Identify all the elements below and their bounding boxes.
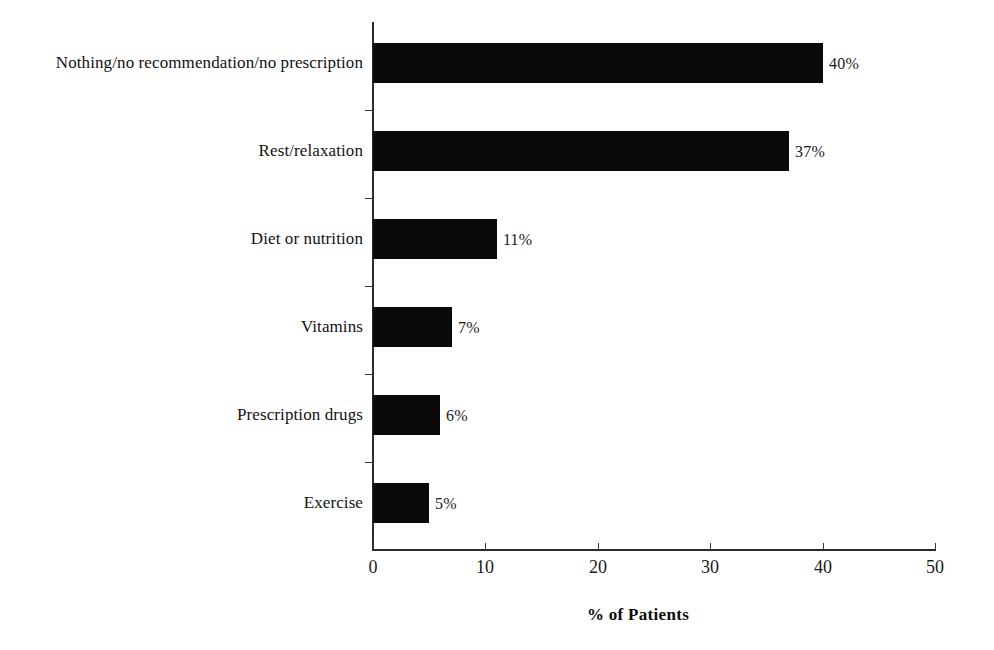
x-axis-tick-40 xyxy=(823,543,824,550)
bar-1 xyxy=(373,131,789,171)
bar-0 xyxy=(373,43,823,83)
x-tick-label-0: 0 xyxy=(343,556,403,578)
bar-value-4: 6% xyxy=(446,408,468,424)
x-axis-tick-30 xyxy=(710,543,711,550)
x-axis-title: % of Patients xyxy=(0,605,994,625)
x-axis-line xyxy=(373,549,936,551)
x-axis-tick-0 xyxy=(373,543,374,550)
category-label-5: Exercise xyxy=(33,493,363,513)
y-axis-tick-2 xyxy=(365,198,373,199)
x-tick-label-40: 40 xyxy=(793,556,853,578)
bar-value-3: 7% xyxy=(458,320,480,336)
y-axis-tick-3 xyxy=(365,286,373,287)
bar-value-1: 37% xyxy=(795,144,825,160)
x-axis-tick-10 xyxy=(485,543,486,550)
y-axis-tick-1 xyxy=(365,110,373,111)
category-label-2: Diet or nutrition xyxy=(33,229,363,249)
bar-4 xyxy=(373,395,440,435)
bar-3 xyxy=(373,307,452,347)
x-tick-label-10: 10 xyxy=(455,556,515,578)
x-axis-tick-20 xyxy=(598,543,599,550)
category-label-4: Prescription drugs xyxy=(33,405,363,425)
x-axis-tick-50 xyxy=(935,543,936,550)
bar-5 xyxy=(373,483,429,523)
x-axis-title-text: % of Patients xyxy=(305,605,689,624)
x-tick-label-30: 30 xyxy=(680,556,740,578)
x-tick-label-20: 20 xyxy=(568,556,628,578)
bar-2 xyxy=(373,219,497,259)
y-axis-tick-4 xyxy=(365,374,373,375)
bar-value-2: 11% xyxy=(503,232,532,248)
category-label-1: Rest/relaxation xyxy=(33,141,363,161)
x-tick-label-50: 50 xyxy=(905,556,965,578)
category-label-3: Vitamins xyxy=(33,317,363,337)
bar-value-0: 40% xyxy=(829,56,859,72)
bar-value-5: 5% xyxy=(435,496,457,512)
bar-chart: Nothing/no recommendation/no prescriptio… xyxy=(0,0,994,650)
category-label-0: Nothing/no recommendation/no prescriptio… xyxy=(33,53,363,73)
y-axis-tick-5 xyxy=(365,462,373,463)
